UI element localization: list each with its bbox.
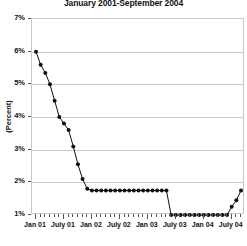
- x-axis-minor-tick: [86, 214, 87, 217]
- y-axis-tick-mark: [28, 214, 31, 215]
- data-point: [127, 189, 131, 193]
- x-axis-minor-tick: [189, 214, 190, 217]
- y-axis-tick-mark: [28, 181, 31, 182]
- x-axis-minor-tick: [49, 214, 50, 217]
- data-point: [90, 189, 94, 193]
- plot-area: [31, 18, 244, 214]
- x-axis-tick-label: Jan 02: [80, 221, 102, 228]
- x-axis-major-tick: [35, 214, 36, 219]
- data-point: [137, 189, 141, 193]
- x-axis-minor-tick: [110, 214, 111, 217]
- y-axis-tick-mark: [28, 51, 31, 52]
- x-axis-major-tick: [119, 214, 120, 219]
- chart-container: January 2001-September 2004 (Percent) 1%…: [0, 0, 247, 246]
- x-axis-tick-label: Jan 04: [192, 221, 214, 228]
- x-axis-minor-tick: [133, 214, 134, 217]
- x-axis-minor-tick: [226, 214, 227, 217]
- x-axis-minor-tick: [40, 214, 41, 217]
- data-point: [141, 189, 145, 193]
- data-point: [43, 71, 47, 75]
- x-axis-minor-tick: [72, 214, 73, 217]
- x-axis-minor-tick: [128, 214, 129, 217]
- x-axis-minor-tick: [151, 214, 152, 217]
- x-axis-major-tick: [203, 214, 204, 219]
- data-point: [34, 50, 38, 54]
- x-axis-major-tick: [231, 214, 232, 219]
- data-point: [113, 189, 117, 193]
- y-axis-tick-label: 5%: [3, 78, 25, 87]
- x-axis-minor-tick: [170, 214, 171, 217]
- x-axis-minor-tick: [68, 214, 69, 217]
- data-point: [239, 189, 243, 193]
- x-axis-tick-label: July 03: [163, 221, 187, 228]
- y-axis-tick-label: 6%: [3, 46, 25, 55]
- data-point: [234, 198, 238, 202]
- series-markers: [34, 50, 243, 217]
- x-axis-minor-tick: [124, 214, 125, 217]
- x-axis-minor-tick: [235, 214, 236, 217]
- y-axis-tick-mark: [28, 149, 31, 150]
- x-axis-minor-tick: [82, 214, 83, 217]
- data-series-federal-funds-rate: [32, 19, 245, 215]
- data-point: [53, 99, 57, 103]
- x-axis-minor-tick: [198, 214, 199, 217]
- data-point: [164, 189, 168, 193]
- x-axis-minor-tick: [96, 214, 97, 217]
- data-point: [150, 189, 154, 193]
- y-axis-tick-mark: [28, 116, 31, 117]
- x-axis-minor-tick: [212, 214, 213, 217]
- x-axis-minor-tick: [161, 214, 162, 217]
- x-axis-minor-tick: [207, 214, 208, 217]
- data-point: [71, 144, 75, 148]
- x-axis-tick-label: Jan 03: [136, 221, 158, 228]
- data-point: [39, 63, 43, 67]
- y-axis-tick-label: 2%: [3, 176, 25, 185]
- x-axis-minor-tick: [193, 214, 194, 217]
- x-axis-minor-tick: [184, 214, 185, 217]
- data-point: [155, 189, 159, 193]
- y-axis-tick-label: 7%: [3, 13, 25, 22]
- data-point: [95, 189, 99, 193]
- y-axis-tick-label: 3%: [3, 144, 25, 153]
- x-axis-minor-tick: [165, 214, 166, 217]
- x-axis-minor-tick: [54, 214, 55, 217]
- x-axis-major-tick: [63, 214, 64, 219]
- y-axis-tick-label: 1%: [3, 209, 25, 218]
- x-axis-major-tick: [91, 214, 92, 219]
- x-axis-minor-tick: [156, 214, 157, 217]
- x-axis-minor-tick: [240, 214, 241, 217]
- data-point: [48, 82, 52, 86]
- x-axis-minor-tick: [221, 214, 222, 217]
- data-point: [230, 205, 234, 209]
- y-axis-tick-mark: [28, 83, 31, 84]
- data-point: [132, 189, 136, 193]
- x-axis-tick-label: Jan 01: [24, 221, 46, 228]
- x-axis-minor-tick: [179, 214, 180, 217]
- data-point: [160, 189, 164, 193]
- y-axis-tick-mark: [28, 18, 31, 19]
- data-point: [109, 189, 113, 193]
- y-axis-tick-label: 4%: [3, 111, 25, 120]
- x-axis-tick-label: July 04: [219, 221, 243, 228]
- x-axis-minor-tick: [105, 214, 106, 217]
- data-point: [123, 189, 127, 193]
- x-axis-minor-tick: [142, 214, 143, 217]
- x-axis-major-tick: [147, 214, 148, 219]
- x-axis-minor-tick: [58, 214, 59, 217]
- data-point: [62, 122, 66, 126]
- x-axis-minor-tick: [100, 214, 101, 217]
- data-point: [146, 189, 150, 193]
- x-axis-tick-label: July 02: [107, 221, 131, 228]
- data-point: [118, 189, 122, 193]
- data-point: [67, 128, 71, 132]
- data-point: [76, 162, 80, 166]
- x-axis-tick-label: July 01: [51, 221, 75, 228]
- data-point: [81, 177, 85, 181]
- data-point: [104, 189, 108, 193]
- x-axis-minor-tick: [44, 214, 45, 217]
- x-axis-minor-tick: [217, 214, 218, 217]
- chart-title: January 2001-September 2004: [0, 0, 247, 8]
- data-point: [99, 189, 103, 193]
- data-point: [85, 187, 89, 191]
- x-axis-minor-tick: [77, 214, 78, 217]
